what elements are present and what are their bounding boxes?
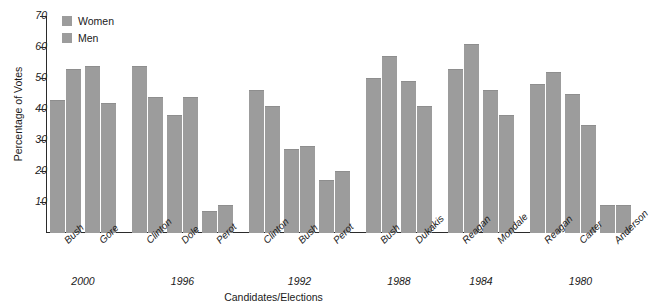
bar-men — [66, 69, 81, 233]
x-axis-year-label: 1988 — [359, 275, 439, 287]
bar-men — [148, 97, 163, 233]
bar-group — [319, 16, 350, 233]
bar-group — [565, 16, 596, 233]
bar-women — [167, 115, 182, 233]
y-axis-tick-label: 10 — [13, 195, 47, 207]
bar-group — [401, 16, 432, 233]
y-axis-tick-label: 60 — [13, 40, 47, 52]
bar-women — [483, 90, 498, 233]
bar-women — [366, 78, 381, 233]
bar-men — [464, 44, 479, 233]
plot-area — [47, 16, 543, 233]
bar-men — [417, 106, 432, 233]
bar-women — [600, 205, 615, 233]
legend-item: Men — [62, 29, 114, 46]
bar-men — [183, 97, 198, 233]
bar-women — [401, 81, 416, 233]
bar-men — [265, 106, 280, 233]
bar-group — [483, 16, 514, 233]
legend-label: Men — [78, 32, 98, 44]
legend-item: Women — [62, 12, 114, 29]
x-axis-year-label: 1992 — [260, 275, 340, 287]
bar-women — [85, 66, 100, 233]
x-axis-year-label: 2000 — [43, 275, 123, 287]
bar-group — [284, 16, 315, 233]
bar-men — [101, 103, 116, 233]
chart-legend: WomenMen — [62, 12, 114, 46]
bar-group — [85, 16, 116, 233]
legend-swatch — [62, 33, 72, 43]
bar-group — [167, 16, 198, 233]
legend-swatch — [62, 16, 72, 26]
bar-group — [530, 16, 561, 233]
bar-group — [448, 16, 479, 233]
bar-women — [530, 84, 545, 233]
x-axis-year-label: 1996 — [143, 275, 223, 287]
bar-group — [132, 16, 163, 233]
y-axis-tick-label: 50 — [13, 71, 47, 83]
bar-group — [50, 16, 81, 233]
bar-group — [600, 16, 631, 233]
bar-women — [50, 100, 65, 233]
x-axis-title: Candidates/Elections — [0, 291, 547, 303]
bar-women — [249, 90, 264, 233]
bar-men — [300, 146, 315, 233]
bar-women — [448, 69, 463, 233]
bar-women — [565, 94, 580, 234]
bar-group — [249, 16, 280, 233]
y-axis-tick-label: 40 — [13, 102, 47, 114]
x-axis-year-label: 1984 — [441, 275, 521, 287]
bar-men — [499, 115, 514, 233]
bar-women — [132, 66, 147, 233]
y-axis-tick-label: 30 — [13, 133, 47, 145]
bar-men — [581, 125, 596, 234]
legend-label: Women — [78, 15, 114, 27]
x-axis-year-label: 1980 — [541, 275, 621, 287]
bar-group — [202, 16, 233, 233]
bar-men — [382, 56, 397, 233]
bar-women — [319, 180, 334, 233]
bar-women — [202, 211, 217, 233]
y-axis-tick-label: 20 — [13, 164, 47, 176]
bar-men — [546, 72, 561, 233]
y-axis-tick-label: 70 — [13, 9, 47, 21]
bar-group — [366, 16, 397, 233]
